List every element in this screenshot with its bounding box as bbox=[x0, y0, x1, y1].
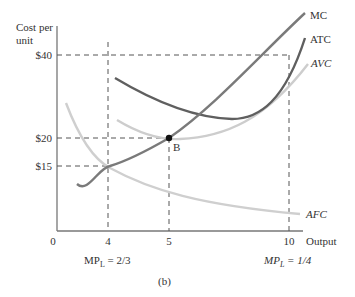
x-tick-5: 5 bbox=[166, 235, 172, 247]
mc-label: MC bbox=[310, 9, 327, 21]
cost-curves-chart: B MC ATC AVC AFC Cost per unit $40 $20 $… bbox=[0, 0, 355, 297]
y-tick-15: $15 bbox=[36, 160, 53, 172]
atc-label: ATC bbox=[310, 33, 331, 45]
afc-curve bbox=[66, 103, 300, 214]
y-tick-20: $20 bbox=[36, 132, 53, 144]
point-b-marker bbox=[166, 135, 172, 141]
avc-label: AVC bbox=[310, 57, 332, 69]
atc-curve bbox=[115, 38, 305, 119]
mp-right-annotation: MPL = 1/4 bbox=[263, 254, 312, 269]
y-axis-title-line2: unit bbox=[16, 34, 33, 46]
x-tick-0: 0 bbox=[50, 235, 56, 247]
mc-curve bbox=[77, 13, 305, 186]
mp-left-annotation: MPL = 2/3 bbox=[84, 254, 131, 269]
panel-label: (b) bbox=[158, 275, 171, 288]
afc-label: AFC bbox=[305, 208, 327, 220]
x-axis-title: Output bbox=[306, 235, 337, 247]
x-tick-10: 10 bbox=[284, 235, 296, 247]
x-tick-4: 4 bbox=[105, 235, 111, 247]
y-axis-title-line1: Cost per bbox=[16, 21, 53, 33]
y-tick-40: $40 bbox=[36, 49, 53, 61]
point-b-label: B bbox=[173, 141, 180, 153]
